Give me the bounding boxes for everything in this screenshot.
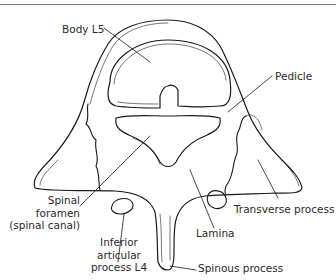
label-pedicle: Pedicle	[275, 70, 312, 83]
vertebra-outline	[34, 20, 302, 270]
label-spinal-foramen-line2: foramen	[0, 207, 80, 220]
leader-transverse	[258, 160, 278, 198]
label-spinal-foramen-line3: (spinal canal)	[0, 219, 80, 232]
label-spinal-foramen-line1: Spinal	[0, 194, 80, 207]
label-body-l5: Body L5	[62, 23, 104, 36]
label-inferior-articular-line1: Inferior	[88, 236, 150, 249]
leader-lines	[80, 28, 278, 270]
label-spinous-process: Spinous process	[198, 262, 283, 275]
label-lamina: Lamina	[196, 227, 235, 240]
label-inferior-articular-line3: process L4	[88, 261, 150, 274]
label-spinal-foramen: Spinal foramen (spinal canal)	[0, 194, 80, 232]
label-inferior-articular-process: Inferior articular process L4	[88, 236, 150, 274]
leader-pedicle	[228, 76, 272, 112]
inferior-articular-process-left	[111, 199, 133, 214]
label-inferior-articular-line2: articular	[88, 249, 150, 262]
label-transverse-process: Transverse process	[234, 203, 334, 216]
right-transverse-notch	[225, 115, 262, 195]
leader-spinous	[170, 266, 196, 270]
spinal-foramen-outline	[116, 116, 221, 167]
inferior-articular-process-right	[207, 191, 226, 209]
vertebra-illustration	[0, 0, 336, 280]
vertebral-body	[108, 40, 231, 108]
left-transverse-notch	[86, 104, 100, 190]
